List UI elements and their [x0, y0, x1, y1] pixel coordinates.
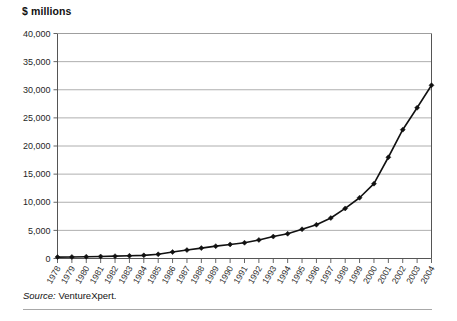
source-value: VentureXpert.: [58, 290, 116, 301]
series-markers-group: [55, 83, 434, 260]
chart-plot-area: 05,00010,00015,00020,00025,00030,00035,0…: [0, 0, 457, 321]
data-point-marker: [213, 244, 218, 249]
data-point-marker: [170, 250, 175, 255]
data-point-marker: [285, 231, 290, 236]
y-axis-tick-label: 30,000: [23, 85, 51, 95]
data-point-marker: [314, 222, 319, 227]
data-point-marker: [199, 246, 204, 251]
y-axis-tick-label: 10,000: [23, 197, 51, 207]
data-point-marker: [271, 234, 276, 239]
chart-figure: $ millions 05,00010,00015,00020,00025,00…: [0, 0, 457, 321]
y-axis-tick-label: 15,000: [23, 169, 51, 179]
y-axis-tick-label: 40,000: [23, 29, 51, 39]
gridlines-group: [58, 34, 432, 231]
y-axis-ticks-group: [54, 34, 58, 259]
data-point-marker: [256, 237, 261, 242]
source-note: Source: VentureXpert.: [23, 290, 117, 301]
x-axis-ticks-group: [58, 259, 432, 264]
data-point-marker: [242, 240, 247, 245]
data-point-marker: [141, 253, 146, 258]
y-axis-tick-label: 35,000: [23, 57, 51, 67]
source-label: Source:: [23, 290, 56, 301]
data-point-marker: [228, 242, 233, 247]
data-point-marker: [113, 254, 118, 259]
bottom-divider: [23, 309, 432, 310]
data-point-marker: [184, 248, 189, 253]
series-line-path: [58, 85, 432, 257]
y-axis-tick-label: 20,000: [23, 141, 51, 151]
data-point-marker: [156, 252, 161, 257]
line-chart-svg: 05,00010,00015,00020,00025,00030,00035,0…: [0, 0, 457, 321]
y-axis-tick-label: 0: [45, 254, 50, 264]
y-axis-tick-label: 25,000: [23, 113, 51, 123]
x-axis-labels-group: 1978197919801981198219831984198519861987…: [44, 264, 436, 286]
data-point-marker: [300, 227, 305, 232]
y-axis-labels-group: 05,00010,00015,00020,00025,00030,00035,0…: [23, 29, 51, 264]
data-point-marker: [127, 253, 132, 258]
y-axis-tick-label: 5,000: [28, 226, 51, 236]
x-axis-tick-label: 2004: [418, 264, 436, 286]
